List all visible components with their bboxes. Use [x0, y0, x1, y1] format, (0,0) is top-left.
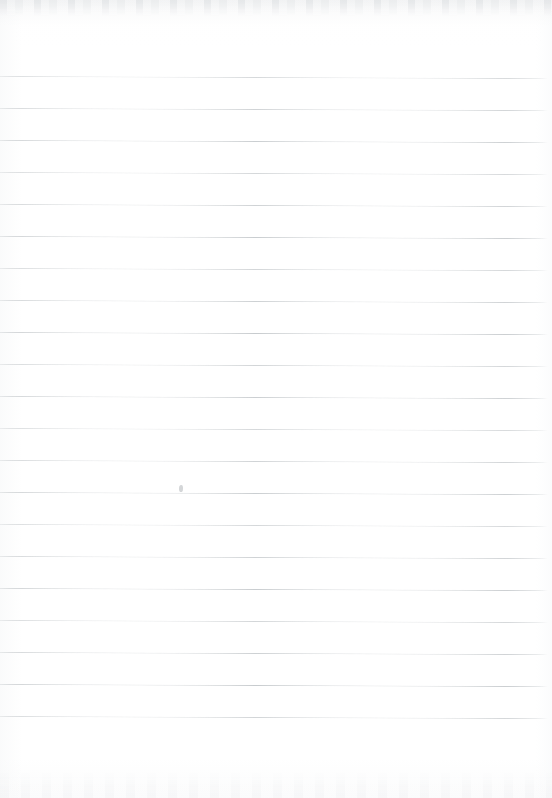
ruled-line: [0, 140, 548, 143]
ruled-line: [0, 204, 548, 207]
ruled-lines-layer: [0, 0, 552, 798]
ruled-line: [0, 652, 548, 655]
ruled-line: [0, 684, 548, 687]
ruled-line: [0, 268, 548, 271]
ruled-line: [0, 108, 548, 111]
ruled-line: [0, 364, 548, 367]
ruled-line: [0, 332, 548, 335]
ruled-line: [0, 620, 548, 623]
ruled-line: [0, 716, 548, 719]
ruled-line: [0, 396, 548, 399]
scanned-paper-page: [0, 0, 552, 798]
ruled-line: [0, 172, 548, 175]
ruled-line: [0, 300, 548, 303]
ruled-line: [0, 524, 548, 527]
ruled-line: [0, 460, 548, 463]
ruled-line: [0, 236, 548, 239]
ruled-line: [0, 492, 548, 495]
ruled-line: [0, 556, 548, 559]
ruled-line: [0, 428, 548, 431]
ruled-line: [0, 76, 548, 79]
ruled-line: [0, 588, 548, 591]
